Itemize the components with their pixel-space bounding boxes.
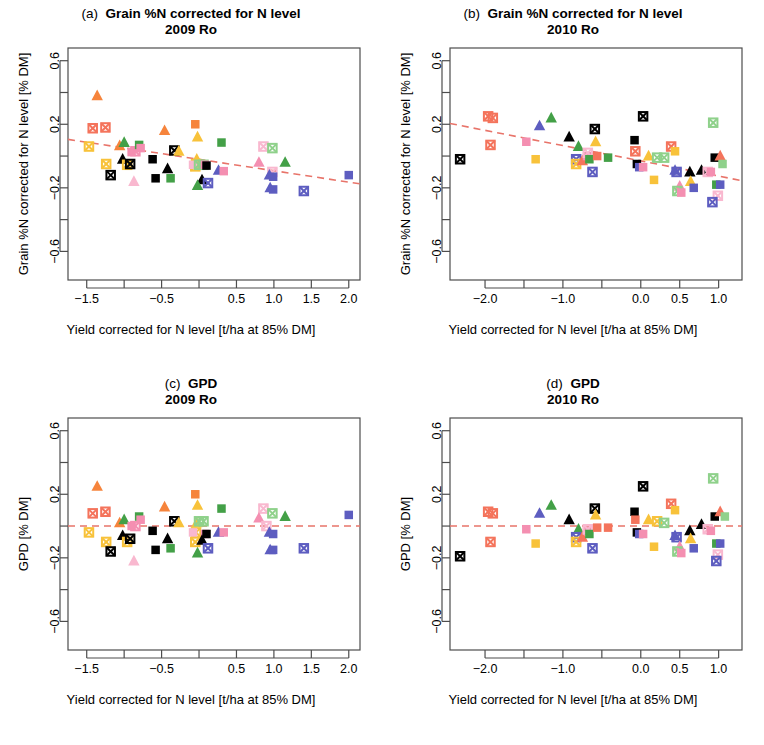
data-point [136,144,145,153]
data-point [217,138,226,147]
data-point [716,539,725,548]
y-tick-label: 0.6 [48,52,62,69]
data-point [593,523,602,532]
data-point [151,174,160,183]
data-point [202,530,211,539]
data-point [709,474,718,483]
y-tick-label: −0.6 [48,609,62,634]
data-point [585,155,594,164]
data-point [677,549,686,558]
data-point [148,155,157,164]
data-point [88,124,97,133]
x-axis-label: Yield corrected for N level [t/ha at 85%… [382,692,764,707]
data-point [639,112,648,121]
data-point [162,533,173,544]
data-point [546,499,557,510]
data-point [639,482,648,491]
y-axis-label: GPD [% DM] [16,418,31,650]
data-point [166,544,175,553]
data-point [128,555,139,566]
data-point [300,187,309,196]
data-point [585,530,594,539]
data-point [219,528,228,537]
y-tick-label: 0.2 [430,486,444,503]
x-tick-label: −0.5 [149,662,174,676]
data-point [192,131,203,142]
chart-panel-d: (d) GPD2010 Ro0.60.2−0.2−0.6−2.0−1.00.00… [382,370,764,745]
data-point [253,156,264,167]
data-point [593,152,602,161]
data-point [684,166,695,177]
data-point [148,527,157,536]
data-point [534,120,545,131]
data-point [591,125,600,134]
x-tick-label: 1.5 [303,292,320,306]
x-tick-label: 2.0 [340,662,357,676]
data-point [718,160,727,169]
y-tick-label: −0.2 [430,545,444,570]
x-tick-label: 1.0 [710,662,727,676]
data-point [136,515,145,524]
data-point [166,174,175,183]
x-tick-label: 0.5 [228,662,245,676]
y-tick-label: −0.2 [48,545,62,570]
data-point [259,504,268,512]
data-point-group [85,89,353,195]
x-tick-label: 0.5 [228,292,245,306]
plot-area-d: 0.60.2−0.2−0.6−2.0−1.00.00.51.0 [382,370,764,745]
data-point [707,168,716,177]
data-point [639,530,648,539]
data-point [268,144,277,153]
data-point [106,547,115,556]
data-point [102,160,111,169]
y-axis-label: GPD [% DM] [398,418,413,650]
y-tick-label: 0.2 [430,116,444,133]
data-point [630,508,639,517]
x-axis-label: Yield corrected for N level [t/ha at 85%… [0,322,382,337]
data-point [191,490,200,499]
x-tick-label: −1.0 [551,662,576,676]
data-point [456,552,465,561]
data-point [279,156,290,167]
data-point [102,538,111,547]
y-axis-label: Grain %N corrected for N level [% DM] [398,48,413,280]
data-point [217,504,226,512]
data-point [689,184,698,193]
data-point [300,544,309,553]
data-point [631,147,640,156]
data-point [151,546,160,555]
data-point [219,167,228,176]
data-point [279,510,290,521]
x-axis-label: Yield corrected for N level [t/ha at 85%… [382,322,764,337]
data-point [202,161,211,170]
data-point [486,538,495,547]
y-tick-label: 0.6 [48,422,62,439]
data-point [85,142,94,151]
data-point-group [456,112,727,207]
data-point [604,523,613,532]
data-point [721,512,730,521]
data-point [650,176,659,185]
figure-root: (a) Grain %N corrected for N level2009 R… [0,0,764,745]
data-point-group [85,480,353,565]
y-axis-label: Grain %N corrected for N level [% DM] [16,48,31,280]
data-point [91,89,102,100]
data-point [573,140,584,151]
data-point [531,155,540,164]
data-point [486,141,495,150]
data-point [671,147,680,156]
data-point [101,508,110,517]
x-tick-label: −2.0 [473,662,498,676]
data-point [345,171,354,180]
data-point [88,509,97,518]
data-point [531,539,540,548]
data-point [546,112,557,123]
data-point-group [456,474,729,565]
data-point [534,507,545,518]
x-axis-label: Yield corrected for N level [t/ha at 85%… [0,692,382,707]
data-point [708,198,717,207]
data-point [269,172,278,181]
x-tick-label: −1.0 [551,292,576,306]
data-point [189,528,198,537]
data-point [639,163,648,172]
